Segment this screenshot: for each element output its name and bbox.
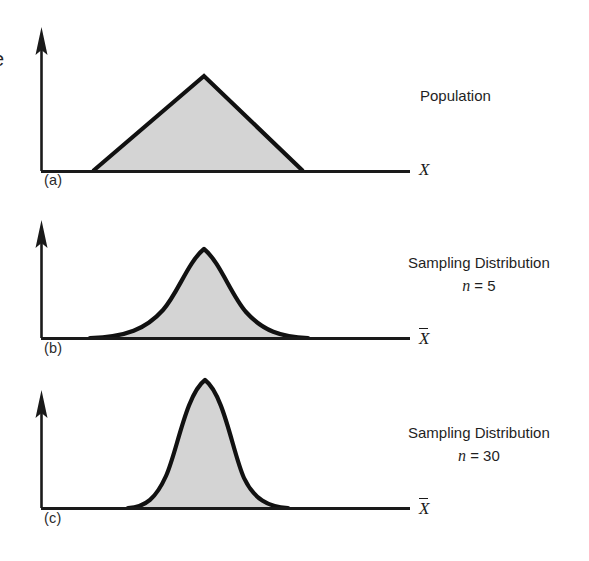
sample-size-value-b: 5 xyxy=(487,277,495,294)
sample-size-value-c: 30 xyxy=(483,447,500,464)
panel-caption-b-line1: Sampling Distribution xyxy=(408,252,550,274)
sample-size-eq-c: = xyxy=(466,447,483,464)
panel-tag-b: (b) xyxy=(44,340,62,356)
panel-a-population: X (a) Population xyxy=(0,0,589,200)
population-triangle-area xyxy=(93,76,303,171)
panel-caption-a: Population xyxy=(420,85,491,107)
panel-caption-c-line2: n = 30 xyxy=(408,444,550,467)
panel-a-plot xyxy=(0,0,589,200)
x-bar-symbol: X xyxy=(419,327,429,349)
panel-tag-c: (c) xyxy=(44,510,62,526)
panel-b-sampling-n5: X (b) Sampling Distribution n = 5 xyxy=(0,200,589,380)
panel-caption-c-line1: Sampling Distribution xyxy=(408,422,550,444)
sampling-n5-curve-area xyxy=(90,249,308,338)
panel-tag-a: (a) xyxy=(44,172,62,188)
x-axis-label-a: X xyxy=(419,160,429,180)
x-axis-label-c: X xyxy=(419,497,429,519)
sampling-n30-curve-area xyxy=(128,380,288,508)
panel-c-sampling-n30: X (c) Sampling Distribution n = 30 xyxy=(0,370,589,561)
sample-size-symbol-c: n xyxy=(458,447,466,464)
figure-container: e X (a) Population xyxy=(0,0,589,561)
panel-caption-a-line1: Population xyxy=(420,85,491,107)
panel-caption-b-line2: n = 5 xyxy=(408,274,550,297)
panel-caption-c: Sampling Distribution n = 30 xyxy=(408,422,550,467)
x-axis-label-b: X xyxy=(419,327,429,349)
sample-size-symbol-b: n xyxy=(462,277,470,294)
sample-size-eq-b: = xyxy=(470,277,487,294)
panel-caption-b: Sampling Distribution n = 5 xyxy=(408,252,550,297)
x-bar-symbol: X xyxy=(419,497,429,519)
